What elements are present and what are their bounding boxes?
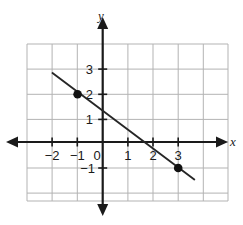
x-tick-label-1: 1 — [124, 148, 131, 163]
y-axis-arrow-down-icon — [97, 204, 108, 216]
x-tick-label-2: 2 — [149, 148, 156, 163]
y-axis-label: y — [96, 8, 104, 23]
line-segment — [53, 73, 195, 179]
y-tick-label-2: 2 — [86, 87, 93, 102]
x-axis-arrow-left-icon — [6, 137, 18, 148]
grid-lines — [27, 44, 228, 201]
x-axis — [6, 137, 228, 148]
coordinate-plane-figure: x y −2 −1 1 2 3 0 3 2 1 −1 — [0, 0, 243, 225]
graph-canvas: x y −2 −1 1 2 3 0 3 2 1 −1 — [0, 0, 243, 225]
x-axis-arrow-right-icon — [216, 137, 228, 148]
data-point-marker — [174, 164, 183, 173]
x-axis-label: x — [229, 134, 236, 149]
x-tick-label--2: −2 — [45, 148, 60, 163]
y-tick-label-3: 3 — [86, 62, 93, 77]
data-point-marker — [73, 90, 82, 99]
y-tick-label--1: −1 — [80, 161, 95, 176]
plotted-line — [53, 73, 195, 179]
x-tick-label-3: 3 — [175, 148, 182, 163]
y-axis — [97, 17, 108, 216]
y-tick-label-1: 1 — [86, 112, 93, 127]
